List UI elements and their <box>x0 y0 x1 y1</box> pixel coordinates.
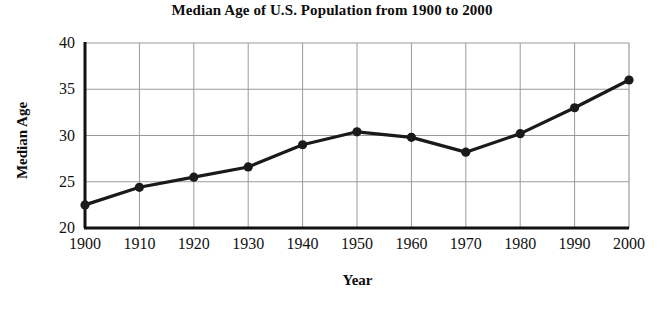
x-tick-label-2000: 2000 <box>599 236 659 252</box>
y-tick-label-25: 25 <box>39 174 75 190</box>
x-tick-label-1990: 1990 <box>545 236 605 252</box>
x-tick-label-1970: 1970 <box>436 236 496 252</box>
data-point-1920 <box>189 173 198 182</box>
data-point-1950 <box>352 127 361 136</box>
chart-figure: Median Age of U.S. Population from 1900 … <box>0 0 664 310</box>
data-point-1940 <box>298 140 307 149</box>
y-tick-label-40: 40 <box>39 35 75 51</box>
y-tick-label-30: 30 <box>39 128 75 144</box>
x-tick-label-1920: 1920 <box>164 236 224 252</box>
y-tick-label-35: 35 <box>39 81 75 97</box>
data-point-1980 <box>516 129 525 138</box>
y-tick-label-20: 20 <box>39 220 75 236</box>
data-point-2000 <box>624 75 633 84</box>
x-tick-label-1930: 1930 <box>218 236 278 252</box>
x-tick-label-1900: 1900 <box>55 236 115 252</box>
x-tick-label-1940: 1940 <box>273 236 333 252</box>
data-point-1910 <box>135 183 144 192</box>
data-point-1960 <box>407 133 416 142</box>
data-point-1990 <box>570 103 579 112</box>
x-tick-label-1980: 1980 <box>490 236 550 252</box>
data-point-1900 <box>80 200 89 209</box>
x-tick-label-1960: 1960 <box>381 236 441 252</box>
plot-area <box>0 0 664 310</box>
x-tick-label-1910: 1910 <box>109 236 169 252</box>
data-point-1970 <box>461 148 470 157</box>
x-tick-label-1950: 1950 <box>327 236 387 252</box>
data-point-1930 <box>244 162 253 171</box>
